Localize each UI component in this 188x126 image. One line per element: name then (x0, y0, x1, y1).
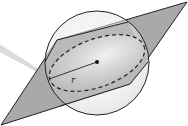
light-rays (0, 44, 40, 73)
radius-label: r (71, 75, 76, 85)
sphere-plane-diagram: r (0, 0, 188, 126)
center-point (95, 60, 99, 64)
